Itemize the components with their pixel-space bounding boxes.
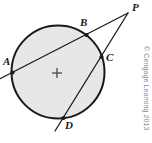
geometry-figure: A B C D P © Cengage Learning 2013 xyxy=(0,0,152,143)
point-dot-a xyxy=(10,70,14,74)
point-label-d: D xyxy=(65,120,73,131)
point-label-b: B xyxy=(80,17,87,28)
point-label-p: P xyxy=(132,2,139,13)
circle-o xyxy=(12,26,105,119)
point-label-a: A xyxy=(3,56,10,67)
copyright-credit: © Cengage Learning 2013 xyxy=(58,46,150,58)
diagram-canvas xyxy=(0,0,152,143)
point-dot-b xyxy=(84,33,88,37)
